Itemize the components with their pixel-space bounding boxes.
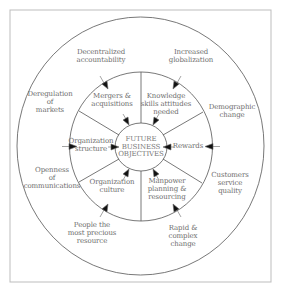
outer-label-customers: Customers service quality	[211, 171, 248, 195]
outer-label-rapid-change: Rapid & complex change	[169, 224, 198, 248]
arrow-icon	[102, 81, 108, 89]
outer-label-people: People the most precious resource	[68, 221, 117, 245]
arrow-icon	[205, 144, 213, 150]
inner-label-manpower: Manpower planning & resourcing	[148, 177, 187, 201]
inner-label-mergers: Mergers & acquisitions	[91, 92, 132, 108]
arrow-icon	[123, 169, 129, 177]
outer-label-demographic: Demographic change	[209, 103, 256, 119]
arrow-icon	[153, 169, 159, 177]
arrow-icon	[123, 117, 129, 125]
outer-label-decentralized: Decentralized accountability	[77, 48, 126, 64]
arrow-icon	[102, 204, 108, 212]
inner-label-knowledge: Knowledge skills attitudes needed	[141, 92, 191, 116]
inner-label-org-structure: Organization structure	[69, 137, 114, 153]
inner-label-org-culture: Organization culture	[90, 178, 135, 194]
arrow-icon	[153, 117, 159, 125]
diagram-canvas: FUTURE BUSINESS OBJECTIVES Mergers & acq…	[0, 0, 281, 292]
outer-label-deregulation: Deregulation of markets	[27, 90, 72, 114]
center-title: FUTURE BUSINESS OBJECTIVES	[118, 136, 164, 159]
outer-label-globalization: Increased globalization	[169, 48, 213, 64]
spoke-upper-left	[79, 111, 119, 135]
outer-label-openness: Openness of communications	[24, 166, 81, 190]
inner-label-rewards: Rewards	[173, 142, 203, 150]
